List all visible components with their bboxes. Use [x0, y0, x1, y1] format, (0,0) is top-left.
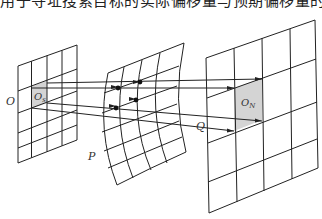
plane-o-label: O	[6, 95, 15, 108]
plane-o-grid	[18, 45, 77, 163]
grid-mapping-diagram: O P Q Os ON	[0, 0, 322, 219]
plane-p-label: P	[87, 150, 96, 163]
plane-q-grid	[206, 20, 318, 213]
plane-q-label: Q	[196, 120, 205, 133]
